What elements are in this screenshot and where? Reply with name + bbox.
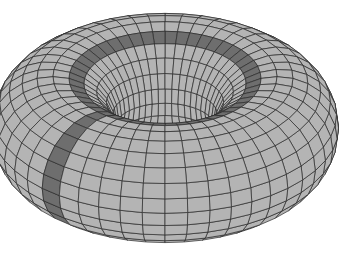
mesh-cell — [125, 151, 147, 167]
mesh-cell — [165, 131, 182, 141]
mesh-cell — [182, 139, 202, 153]
mesh-cell — [165, 74, 173, 90]
torus-mesh — [0, 13, 339, 242]
mesh-cell — [165, 125, 180, 132]
torus-diagram — [0, 0, 339, 260]
mesh-cell — [142, 198, 165, 213]
mesh-cell — [151, 89, 158, 104]
mesh-cell — [122, 166, 145, 183]
mesh-cell — [165, 183, 187, 199]
mesh-cell — [151, 104, 158, 117]
mesh-cell — [150, 125, 165, 132]
mesh-cell — [172, 104, 179, 117]
mesh-cell — [165, 103, 172, 116]
mesh-cell — [187, 181, 210, 198]
mesh-cell — [165, 198, 188, 213]
mesh-cell — [53, 77, 70, 85]
mesh-cell — [145, 90, 152, 105]
mesh-cell — [184, 151, 206, 167]
mesh-cell — [165, 234, 187, 241]
mesh-cell — [158, 103, 165, 116]
mesh-cell — [260, 77, 277, 85]
mesh-cell — [150, 22, 165, 32]
mesh-cell — [121, 181, 144, 198]
mesh-cell — [205, 162, 228, 181]
mesh-cell — [145, 153, 165, 168]
mesh-cell — [146, 141, 165, 154]
mesh-cell — [143, 183, 165, 199]
mesh-cell — [165, 168, 187, 184]
mesh-cell — [165, 141, 184, 154]
mesh-cell — [165, 89, 172, 104]
mesh-cell — [157, 74, 165, 90]
mesh-cell — [148, 131, 165, 141]
mesh-cell — [143, 234, 165, 241]
mesh-cell — [165, 225, 187, 235]
mesh-cell — [165, 153, 185, 168]
mesh-cell — [178, 90, 185, 105]
mesh-cell — [187, 196, 210, 212]
mesh-cell — [165, 22, 180, 32]
mesh-cell — [148, 16, 165, 23]
mesh-cell — [143, 225, 165, 235]
mesh-cell — [120, 196, 143, 212]
mesh-cell — [142, 213, 165, 226]
mesh-cell — [143, 168, 165, 184]
mesh-cell — [165, 213, 188, 226]
mesh-cell — [158, 89, 165, 104]
mesh-cell — [128, 139, 148, 153]
mesh-cell — [165, 16, 182, 23]
mesh-cell — [102, 162, 125, 181]
mesh-cell — [172, 89, 179, 104]
mesh-cell — [185, 166, 208, 183]
